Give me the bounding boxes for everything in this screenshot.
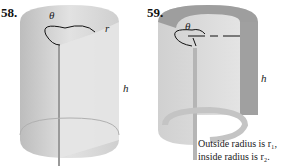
problem-number-59: 59.	[147, 5, 163, 21]
radius-label: r	[105, 22, 109, 34]
problem-number-58: 58.	[1, 5, 17, 21]
theta-label: θ	[185, 20, 190, 32]
theta-label: θ	[49, 9, 54, 21]
hollow-cylinder-wedge	[158, 5, 258, 160]
height-label: h	[123, 82, 129, 94]
caption-line-1: Outside radius is r₁,	[198, 138, 277, 150]
caption-line-2: inside radius is r₂.	[198, 151, 270, 163]
height-label: h	[261, 72, 267, 84]
